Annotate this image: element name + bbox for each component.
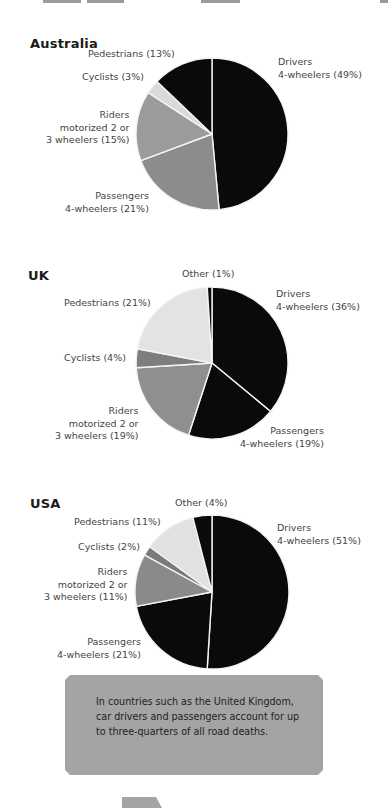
label-riders: Riders motorized 2 or 3 wheelers (11%) <box>44 566 127 604</box>
callout-text: In countries such as the United Kingdom,… <box>96 694 311 739</box>
label-pedestrians: Pedestrians (11%) <box>74 516 161 529</box>
callout-box: In countries such as the United Kingdom,… <box>65 675 323 775</box>
label-drivers: Drivers 4-wheelers (51%) <box>277 522 361 547</box>
label-other: Other (4%) <box>175 497 227 510</box>
bottom-tab <box>122 797 162 808</box>
label-passengers: Passengers 4-wheelers (21%) <box>57 636 141 661</box>
label-cyclists: Cyclists (2%) <box>78 541 140 554</box>
